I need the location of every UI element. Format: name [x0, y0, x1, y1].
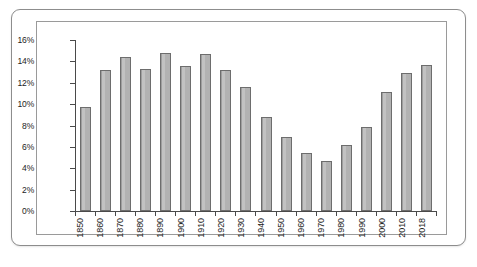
x-axis-label: 1900 — [176, 218, 186, 238]
bar[interactable] — [381, 92, 392, 211]
bar-slot — [276, 40, 296, 211]
x-axis-label: 1930 — [236, 218, 246, 238]
x-axis-label-slot: 1940 — [256, 218, 276, 252]
x-axis-tick — [135, 212, 155, 216]
x-axis-label: 1990 — [357, 218, 367, 238]
x-axis-tick — [236, 212, 256, 216]
x-axis-label: 1960 — [296, 218, 306, 238]
x-axis-label: 2018 — [417, 218, 427, 238]
x-axis-label-slot: 1930 — [236, 218, 256, 252]
bar-slot — [417, 40, 437, 211]
bar[interactable] — [220, 70, 231, 211]
x-axis-tick — [296, 212, 316, 216]
bar-slot — [216, 40, 236, 211]
x-axis-label: 2010 — [397, 218, 407, 238]
x-axis-label: 1910 — [196, 218, 206, 238]
bar-slot — [155, 40, 175, 211]
x-axis-label: 1890 — [156, 218, 166, 238]
x-axis-tick — [377, 212, 397, 216]
x-axis-label-slot: 1970 — [316, 218, 336, 252]
x-axis-label-slot: 1920 — [216, 218, 236, 252]
x-axis-tick — [357, 212, 377, 216]
bar[interactable] — [321, 161, 332, 211]
y-axis-tick-label: 12% — [18, 78, 34, 88]
x-axis-label: 2000 — [377, 218, 387, 238]
x-axis-tick — [95, 212, 115, 216]
x-axis-tick — [336, 212, 356, 216]
bar[interactable] — [341, 145, 352, 211]
x-axis-label-slot: 1870 — [115, 218, 135, 252]
x-axis-label-slot: 1860 — [95, 218, 115, 252]
bar-slot — [115, 40, 135, 211]
x-axis-label: 1870 — [115, 218, 125, 238]
bar-chart: 16%14%12%10%8%6%4%2%0% 18501860187018801… — [37, 22, 446, 234]
x-axis-tick — [196, 212, 216, 216]
x-axis-tick — [155, 212, 175, 216]
x-axis-label-slot: 1890 — [155, 218, 175, 252]
x-axis-tick — [417, 212, 437, 216]
bar[interactable] — [120, 57, 131, 211]
bar[interactable] — [261, 117, 272, 211]
bar[interactable] — [160, 53, 171, 211]
bar[interactable] — [180, 66, 191, 211]
y-axis-tick-label: 2% — [22, 185, 34, 195]
x-axis-label-slot: 1960 — [296, 218, 316, 252]
x-axis-label: 1850 — [75, 218, 85, 238]
y-axis-tick-label: 0% — [22, 206, 34, 216]
bar-slot — [196, 40, 216, 211]
x-axis-label-slot: 2018 — [417, 218, 437, 252]
x-axis-label-slot: 1880 — [135, 218, 155, 252]
x-axis-label-slot: 1990 — [357, 218, 377, 252]
x-axis-tick — [316, 212, 336, 216]
x-axis-tick — [276, 212, 296, 216]
bar[interactable] — [281, 137, 292, 211]
x-axis-tick — [115, 212, 135, 216]
x-axis-label: 1950 — [276, 218, 286, 238]
bar-slot — [176, 40, 196, 211]
y-axis-tick-label: 10% — [18, 99, 34, 109]
x-axis-label: 1970 — [317, 218, 327, 238]
bar[interactable] — [421, 65, 432, 211]
bar[interactable] — [100, 70, 111, 211]
x-axis-label-slot: 2010 — [397, 218, 417, 252]
bar-slot — [377, 40, 397, 211]
bar[interactable] — [80, 107, 91, 211]
bar[interactable] — [401, 73, 412, 211]
bar-series — [75, 40, 437, 211]
x-axis-label: 1880 — [136, 218, 146, 238]
bar-slot — [236, 40, 256, 211]
bar-slot — [316, 40, 336, 211]
y-axis-tick-label: 6% — [22, 142, 34, 152]
x-axis-tick — [397, 212, 417, 216]
x-axis-labels: 1850186018701880189019001910192019301940… — [75, 218, 437, 252]
x-axis-label: 1940 — [256, 218, 266, 238]
bar-slot — [357, 40, 377, 211]
bar[interactable] — [361, 127, 372, 211]
x-axis-ticks — [75, 212, 437, 216]
bar-slot — [75, 40, 95, 211]
x-axis-label-slot: 1850 — [75, 218, 95, 252]
bar[interactable] — [140, 69, 151, 211]
x-axis-label: 1980 — [337, 218, 347, 238]
bar-slot — [397, 40, 417, 211]
bar-slot — [296, 40, 316, 211]
x-axis-tick — [216, 212, 236, 216]
x-axis-tick — [75, 212, 95, 216]
x-axis-label-slot: 1910 — [196, 218, 216, 252]
x-axis-label-slot: 1900 — [176, 218, 196, 252]
x-axis-tick — [256, 212, 276, 216]
bar[interactable] — [200, 54, 211, 211]
y-axis-tick-label: 4% — [22, 163, 34, 173]
y-axis-tick-label: 14% — [18, 56, 34, 66]
bar-slot — [135, 40, 155, 211]
bar-slot — [95, 40, 115, 211]
x-axis-label: 1920 — [216, 218, 226, 238]
x-axis-label: 1860 — [95, 218, 105, 238]
x-axis-label-slot: 2000 — [377, 218, 397, 252]
bar[interactable] — [301, 153, 312, 211]
chart-outer-frame: 16%14%12%10%8%6%4%2%0% 18501860187018801… — [11, 9, 466, 246]
x-axis-label-slot: 1980 — [336, 218, 356, 252]
bar-slot — [256, 40, 276, 211]
bar[interactable] — [240, 87, 251, 211]
bar-slot — [336, 40, 356, 211]
